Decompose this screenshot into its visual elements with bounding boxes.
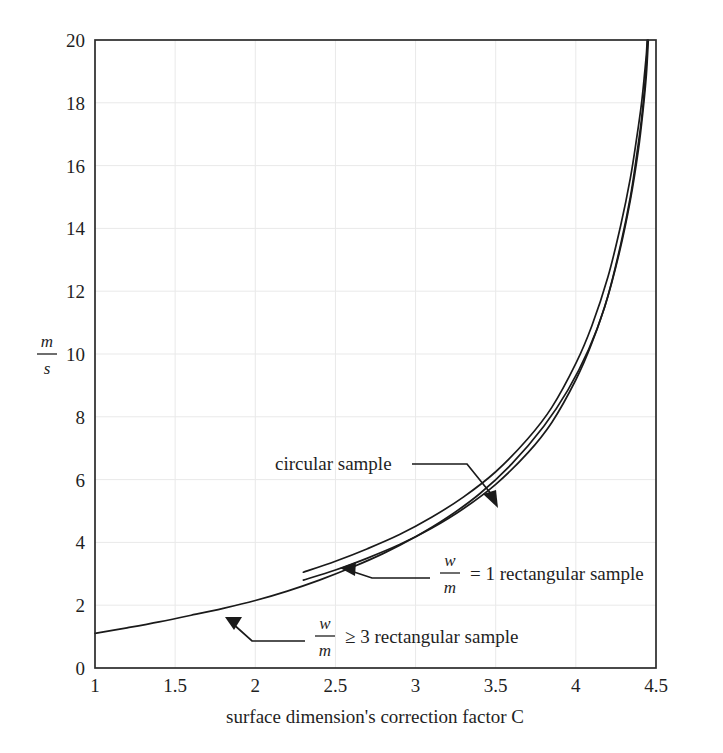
y-tick-label: 12 [66,281,85,302]
x-tick-label: 2 [251,675,261,696]
x-axis-title: surface dimension's correction factor C [226,706,524,727]
x-tick-label: 3 [411,675,421,696]
x-tick-label: 2.5 [324,675,348,696]
annotation-rect-ratio-1-numerator: w [444,551,456,570]
x-tick-label: 1 [90,675,100,696]
annotation-rect-ratio-1-label: = 1 rectangular sample [470,563,644,584]
y-tick-label: 18 [66,93,85,114]
annotation-rect-ratio-3-denominator: m [319,641,331,660]
data-curve-0 [303,40,647,572]
annotation-circular-sample: circular sample [275,453,498,508]
data-curve-1 [303,40,647,580]
y-axis-title: m s [37,332,57,378]
annotation-circular-sample-label: circular sample [275,453,392,474]
y-axis-tick-labels: 02468101214161820 [66,30,86,679]
annotation-rect-ratio-3-label: ≥ 3 rectangular sample [345,626,518,647]
y-tick-label: 14 [66,218,86,239]
x-tick-label: 4.5 [644,675,668,696]
data-curves [95,40,648,633]
figure-container: 11.522.533.544.5 02468101214161820 surfa… [0,0,723,753]
line-chart: 11.522.533.544.5 02468101214161820 surfa… [0,0,723,753]
y-tick-label: 10 [66,344,85,365]
annotation-rect-ratio-1: w m = 1 rectangular sample [340,551,644,597]
y-tick-label: 8 [76,407,86,428]
annotation-rect-ratio-3-leader [232,623,305,641]
x-tick-label: 4 [571,675,581,696]
x-tick-label: 1.5 [163,675,187,696]
y-tick-label: 0 [76,658,86,679]
annotation-rect-ratio-3: w m ≥ 3 rectangular sample [225,614,518,660]
y-tick-label: 20 [66,30,85,51]
y-tick-label: 4 [76,532,86,553]
annotation-rect-ratio-3-numerator: w [319,614,331,633]
y-tick-label: 16 [66,156,85,177]
x-tick-label: 3.5 [484,675,508,696]
y-tick-label: 6 [76,470,86,491]
annotation-rect-ratio-1-denominator: m [444,578,456,597]
data-curve-2 [95,40,648,633]
annotation-rect-ratio-3-arrowhead [225,617,242,630]
annotation-rect-ratio-1-leader [348,570,430,578]
x-axis-tick-labels: 11.522.533.544.5 [90,675,668,696]
y-axis-title-denominator: s [44,359,51,378]
y-axis-title-numerator: m [41,332,53,351]
y-tick-label: 2 [76,595,86,616]
annotation-rect-ratio-1-arrowhead [340,562,356,576]
